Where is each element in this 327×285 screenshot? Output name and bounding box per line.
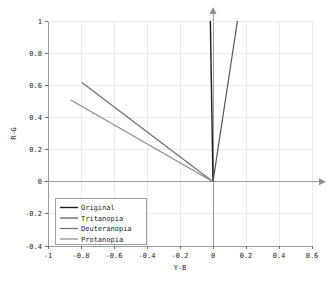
legend-label-tritanopia: Tritanopia [81,215,123,223]
ytick-label: -0.4 [25,243,42,251]
ytick-label: 0.8 [29,50,42,58]
xtick-label: -0.8 [73,252,90,260]
xtick-label: -1 [44,252,52,260]
ytick-label: 0.6 [29,82,42,90]
xtick-labels: -1-0.8-0.6-0.4-0.200.20.40.6 [44,252,319,260]
xtick-label: 0 [211,252,215,260]
legend-label-original: Original [81,204,115,212]
y-axis-arrow-icon [210,7,217,14]
xtick-label: 0.2 [240,252,253,260]
legend: OriginalTritanopiaDeuteranopiaProtanopia [55,198,146,244]
ytick-label: 0.4 [29,114,42,122]
ytick-labels: -0.4-0.200.20.40.60.81 [25,18,42,251]
xtick-label: -0.2 [172,252,189,260]
ytick-label: 0 [38,178,42,186]
xtick-label: -0.6 [106,252,123,260]
x-axis-arrow-icon [319,178,326,185]
ytick-label: -0.2 [25,210,42,218]
y-axis-title: R-G [10,127,18,140]
chart-figure: -1-0.8-0.6-0.4-0.200.20.40.6-0.4-0.200.2… [0,0,327,285]
xtick-label: 0.4 [273,252,286,260]
xtick-label: 0.6 [306,252,319,260]
xtick-label: -0.4 [139,252,156,260]
x-axis-title: Y-B [174,264,187,272]
ytick-label: 0.2 [29,146,42,154]
legend-label-protanopia: Protanopia [81,236,123,244]
chart-canvas: -1-0.8-0.6-0.4-0.200.20.40.6-0.4-0.200.2… [0,0,327,285]
legend-label-deuteranopia: Deuteranopia [81,225,132,233]
ytick-label: 1 [38,18,42,26]
